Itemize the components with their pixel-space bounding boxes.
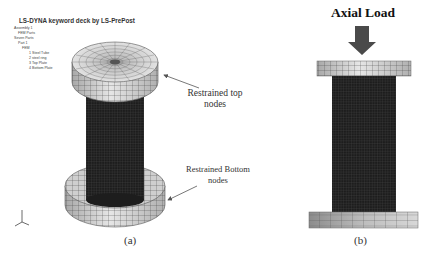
steel-tube-b xyxy=(332,76,396,212)
restrained-top-nodes-label: Restrained top nodes xyxy=(186,88,244,110)
top-plate xyxy=(72,42,158,102)
tree-item[interactable]: 4 Bottom Plate xyxy=(11,66,53,71)
figure-graphics xyxy=(0,0,432,260)
caption-a: (a) xyxy=(124,234,136,246)
axial-load-arrow-icon xyxy=(348,26,376,55)
top-nodes-arrow xyxy=(164,75,199,88)
restrained-bottom-nodes-label: Restrained Bottom nodes xyxy=(182,164,254,186)
axial-load-label: Axial Load xyxy=(318,5,408,21)
caption-b: (b) xyxy=(354,234,367,246)
panel-b-model xyxy=(309,26,418,228)
bottom-nodes-arrow xyxy=(168,186,197,200)
steel-tube xyxy=(86,92,144,207)
model-tree-title: LS-DYNA keyword deck by LS-PrePost xyxy=(19,17,135,24)
model-tree: Assembly 1 FEM Parts Seven Parts Part 1 … xyxy=(11,26,53,71)
axis-triad-icon xyxy=(15,210,29,226)
